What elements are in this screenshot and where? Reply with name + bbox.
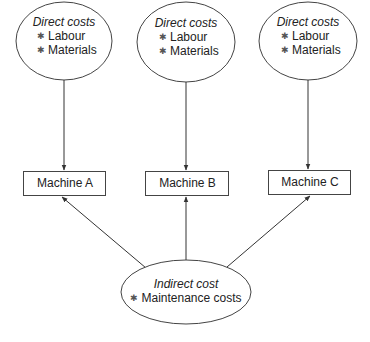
machine-a-label: Machine A bbox=[24, 171, 106, 195]
list-item: ✱Materials bbox=[24, 43, 104, 57]
bullet-icon: ✱ bbox=[281, 45, 289, 55]
list-item: ✱Materials bbox=[146, 44, 226, 58]
item-label: Materials bbox=[48, 43, 97, 57]
item-label: Labour bbox=[292, 29, 329, 43]
bullet-icon: ✱ bbox=[281, 31, 289, 41]
bullet-icon: ✱ bbox=[159, 32, 167, 42]
list-item: ✱Labour bbox=[24, 29, 104, 43]
item-label: Materials bbox=[170, 44, 219, 58]
direct-costs-node-b: Direct costs ✱Labour ✱Materials bbox=[146, 16, 226, 58]
item-label: Materials bbox=[292, 43, 341, 57]
machine-b-label: Machine B bbox=[146, 171, 229, 195]
direct-costs-node-c: Direct costs ✱Labour ✱Materials bbox=[268, 15, 348, 57]
direct-costs-node-a: Direct costs ✱Labour ✱Materials bbox=[24, 15, 104, 57]
item-label: Labour bbox=[170, 30, 207, 44]
node-title: Direct costs bbox=[146, 16, 226, 30]
node-title: Indirect cost bbox=[126, 277, 246, 291]
node-title: Direct costs bbox=[268, 15, 348, 29]
bullet-icon: ✱ bbox=[159, 46, 167, 56]
list-item: ✱Maintenance costs bbox=[126, 291, 246, 305]
list-item: ✱Labour bbox=[268, 29, 348, 43]
bullet-icon: ✱ bbox=[37, 31, 45, 41]
bullet-icon: ✱ bbox=[37, 45, 45, 55]
list-item: ✱Labour bbox=[146, 30, 226, 44]
node-title: Direct costs bbox=[24, 15, 104, 29]
indirect-cost-node: Indirect cost ✱Maintenance costs bbox=[126, 277, 246, 305]
machine-c-label: Machine C bbox=[269, 170, 351, 194]
arrow-indirect-to-machine-a bbox=[62, 197, 146, 268]
item-label: Labour bbox=[48, 29, 85, 43]
item-label: Maintenance costs bbox=[141, 291, 241, 305]
cost-allocation-diagram: Direct costs ✱Labour ✱Materials Direct c… bbox=[0, 0, 370, 342]
bullet-icon: ✱ bbox=[130, 293, 138, 303]
arrow-indirect-to-machine-c bbox=[227, 196, 310, 267]
list-item: ✱Materials bbox=[268, 43, 348, 57]
